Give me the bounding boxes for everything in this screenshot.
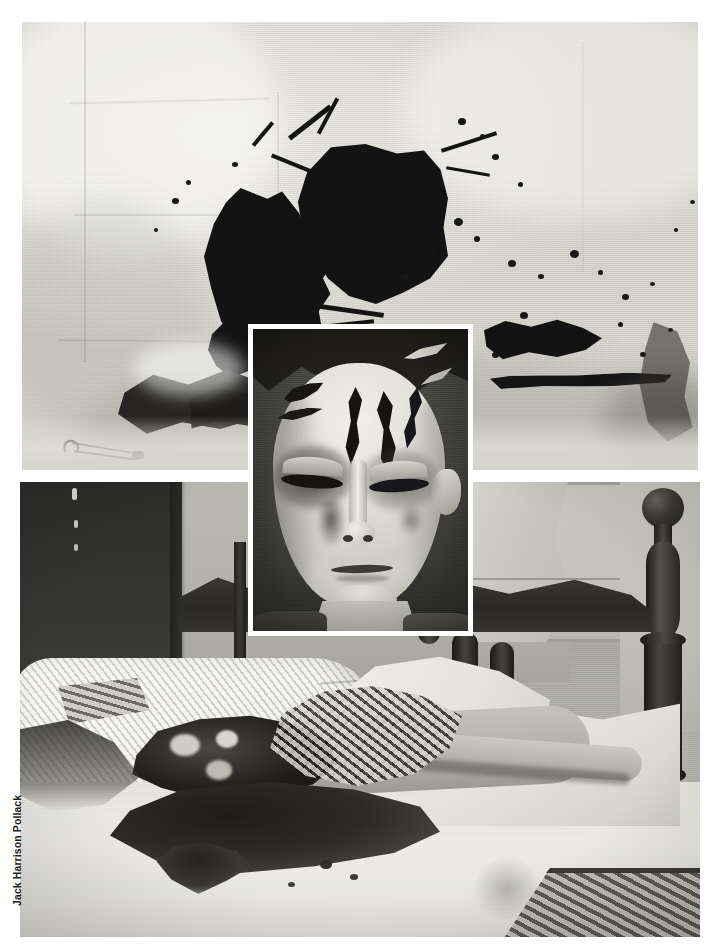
spatter-drop — [650, 282, 655, 286]
spatter-drop — [690, 200, 695, 204]
spatter-drop — [474, 236, 480, 242]
spatter-drop — [538, 274, 544, 279]
spatter-drop — [618, 322, 623, 327]
spatter-drop — [570, 250, 579, 258]
sheet-shading-2 — [402, 22, 698, 222]
inset-vignette — [253, 329, 468, 631]
spatter-drop — [172, 198, 179, 204]
sheet-fold-highlight — [134, 342, 244, 396]
inset-image-canvas — [253, 329, 468, 631]
photo-credit: Jack Harrison Pollack — [11, 796, 23, 906]
spatter-drop — [186, 180, 191, 185]
spatter-drop — [518, 182, 523, 187]
spatter-drop — [232, 162, 238, 167]
spatter-drop — [622, 294, 629, 300]
spatter-drop — [430, 252, 435, 256]
spatter-drop — [402, 274, 409, 280]
blood-streak-6 — [314, 303, 384, 318]
spatter-drop — [674, 228, 678, 232]
spatter-drop — [508, 260, 516, 267]
spatter-drop — [458, 118, 466, 125]
spatter-drop — [598, 270, 603, 275]
page-canvas: Jack Harrison Pollack — [0, 0, 720, 951]
victim-face-closeup-inset — [248, 324, 473, 636]
sheet-crease-mid — [74, 214, 224, 216]
sheet-crease-left — [84, 22, 86, 362]
spatter-drop — [374, 296, 379, 301]
spatter-drop — [492, 154, 499, 160]
spatter-drop — [154, 228, 158, 232]
spatter-drop — [454, 218, 463, 226]
spatter-drop — [520, 312, 528, 319]
sheet-crease-right — [582, 42, 584, 272]
spatter-drop — [480, 134, 485, 139]
